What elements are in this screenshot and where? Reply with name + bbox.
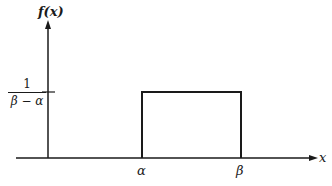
- density-rectangle: [142, 92, 241, 158]
- fraction-bar: [8, 92, 46, 93]
- x-axis-label: x: [319, 150, 326, 165]
- y-axis-arrow-icon: [45, 20, 51, 29]
- plot-area: [0, 0, 332, 186]
- alpha-tick-label: α: [137, 163, 146, 178]
- height-label: 1 β − α: [6, 78, 48, 108]
- x-axis-arrow-icon: [309, 155, 318, 161]
- beta-tick-label: β: [236, 163, 244, 178]
- height-denominator: β − α: [6, 94, 48, 108]
- y-axis-label: f(x): [38, 4, 64, 19]
- height-numerator: 1: [6, 78, 48, 91]
